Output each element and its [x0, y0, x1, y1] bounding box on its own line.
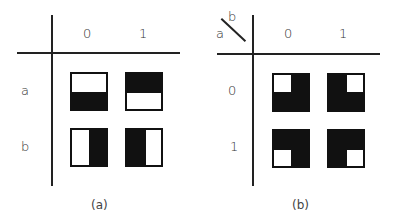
row-header-1: 1	[230, 140, 238, 153]
row-axis-line	[51, 15, 53, 186]
cell-1-1	[327, 129, 365, 168]
cell-b-1	[125, 128, 163, 167]
caption-b: (b)	[292, 199, 309, 211]
black-region	[89, 130, 106, 165]
white-quadrant	[347, 75, 363, 92]
white-quadrant	[274, 150, 291, 166]
column-axis-line	[17, 52, 180, 54]
black-region	[72, 92, 106, 109]
cell-a-0	[70, 72, 108, 111]
cell-b-0	[70, 128, 108, 167]
corner-label-col-var: b	[228, 10, 236, 23]
row-header-a: a	[21, 84, 29, 97]
column-header-1: 1	[339, 27, 347, 40]
column-header-1: 1	[139, 27, 147, 40]
white-quadrant	[347, 150, 363, 166]
cell-1-0	[272, 129, 310, 168]
column-header-0: 0	[83, 27, 91, 40]
panel-a: 0 1 a b (a)	[0, 0, 200, 223]
white-quadrant	[274, 75, 291, 92]
row-header-b: b	[21, 140, 29, 153]
row-header-0: 0	[228, 84, 236, 97]
corner-label-row-var: a	[216, 27, 224, 40]
column-header-0: 0	[284, 27, 292, 40]
panel-b: b a 0 1 0 1 (b)	[200, 0, 397, 223]
row-axis-line	[252, 15, 254, 186]
cell-0-1	[327, 73, 365, 112]
black-region	[127, 74, 161, 93]
cell-a-1	[125, 72, 163, 111]
black-region	[127, 130, 146, 165]
caption-a: (a)	[91, 199, 108, 211]
column-axis-line	[217, 53, 380, 55]
cell-0-0	[272, 73, 310, 112]
